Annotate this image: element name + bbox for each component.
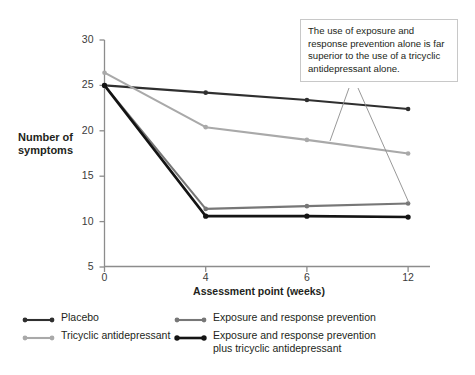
series-data-point bbox=[203, 125, 208, 130]
series-data-point bbox=[406, 151, 411, 156]
series-data-point bbox=[406, 107, 411, 112]
x-axis-ticks bbox=[105, 267, 409, 272]
x-axis-tick-label: 4 bbox=[194, 271, 218, 283]
x-axis-tick-label: 0 bbox=[93, 271, 117, 283]
legend-swatch-tricyclic-antidepressant bbox=[22, 330, 55, 342]
series-data-point bbox=[406, 214, 411, 219]
y-axis-tick-label: 15 bbox=[72, 169, 94, 181]
legend-item-exposure-response-prevention-plus-tricyclic[interactable]: Exposure and response prevention plus tr… bbox=[174, 329, 376, 354]
chart-legend: Placebo Tricyclic antidepressant Exposur… bbox=[0, 305, 475, 375]
legend-swatch-exposure-response-prevention bbox=[174, 312, 207, 324]
x-axis-tick-label: 6 bbox=[295, 271, 319, 283]
legend-label-exposure-response-prevention-plus-tricyclic: Exposure and response prevention plus tr… bbox=[213, 329, 376, 354]
leader-line-tricyclic bbox=[330, 88, 349, 141]
series-data-point bbox=[203, 214, 208, 219]
series-data-point bbox=[203, 207, 208, 212]
legend-swatch-exposure-response-prevention-plus-tricyclic bbox=[174, 330, 207, 342]
x-axis-title: Assessment point (weeks) bbox=[104, 285, 414, 297]
legend-item-placebo[interactable]: Placebo bbox=[22, 311, 99, 324]
series-data-point bbox=[305, 98, 310, 103]
legend-item-tricyclic-antidepressant[interactable]: Tricyclic antidepressant bbox=[22, 329, 170, 342]
y-axis-tick-label: 30 bbox=[72, 33, 94, 45]
data-series-layer bbox=[102, 70, 411, 219]
legend-label-placebo: Placebo bbox=[61, 311, 99, 324]
chart-figure: Number of symptoms Assessment point (wee… bbox=[0, 0, 475, 375]
y-axis-tick-label: 10 bbox=[72, 215, 94, 227]
y-axis-tick-label: 20 bbox=[72, 124, 94, 136]
plot-area: Number of symptoms Assessment point (wee… bbox=[0, 0, 475, 300]
legend-swatch-placebo bbox=[22, 312, 55, 324]
legend-label-exposure-response-prevention: Exposure and response prevention bbox=[213, 311, 376, 324]
legend-label-tricyclic-antidepressant: Tricyclic antidepressant bbox=[61, 329, 170, 342]
y-axis-tick-label: 5 bbox=[72, 260, 94, 272]
x-axis-tick-label: 12 bbox=[396, 271, 420, 283]
series-data-point bbox=[102, 83, 107, 88]
leader-line-erp bbox=[358, 88, 409, 203]
series-data-point bbox=[102, 70, 107, 75]
y-axis-tick-label: 25 bbox=[72, 78, 94, 90]
series-data-point bbox=[304, 214, 309, 219]
series-data-point bbox=[203, 90, 208, 95]
legend-item-exposure-response-prevention[interactable]: Exposure and response prevention bbox=[174, 311, 376, 324]
series-data-point bbox=[305, 204, 310, 209]
callout-annotation: The use of exposure and response prevent… bbox=[300, 19, 458, 82]
series-data-point bbox=[305, 138, 310, 143]
